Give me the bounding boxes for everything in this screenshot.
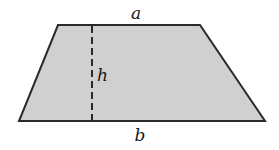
height-label: h [97, 65, 108, 85]
top-base-label: a [131, 3, 141, 23]
bottom-base-label: b [135, 125, 146, 145]
trapezoid-diagram: a h b [0, 0, 279, 150]
trapezoid-shape [19, 25, 265, 121]
